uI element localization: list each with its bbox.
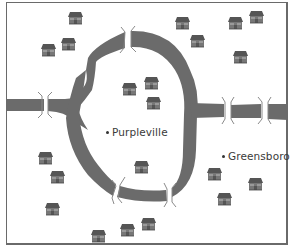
road-loop-south (117, 186, 167, 202)
house-icon (45, 203, 60, 215)
house-icon (122, 83, 137, 95)
road-west (7, 99, 44, 111)
house-icon (146, 97, 161, 109)
road-west-branch (48, 32, 125, 130)
town-label-greensboro: Greensboro (222, 150, 290, 162)
house-icon (190, 35, 205, 47)
town-dot-icon (106, 131, 109, 134)
house-icon (120, 224, 135, 236)
house-icon (144, 77, 159, 89)
house-icon (175, 17, 190, 29)
house-icon (228, 17, 243, 29)
house-icon (248, 178, 263, 190)
town-dot-icon (222, 155, 225, 158)
house-icon (41, 44, 56, 56)
house-icon (68, 12, 83, 24)
road-east-3 (268, 104, 288, 120)
house-icon (134, 161, 149, 173)
house-icon (217, 193, 232, 205)
house-icon (38, 152, 53, 164)
road-east-2 (231, 104, 261, 118)
house-icon (249, 11, 264, 23)
house-icon (61, 38, 76, 50)
house-icon (91, 230, 106, 242)
house-icon (207, 168, 222, 180)
road-network (0, 0, 293, 249)
house-icon (233, 51, 248, 63)
house-icon (141, 218, 156, 230)
town-label-purpleville: Purpleville (106, 126, 168, 138)
map-canvas: Purpleville Greensboro (0, 0, 293, 249)
road-east-1 (190, 103, 224, 118)
house-icon (50, 171, 65, 183)
